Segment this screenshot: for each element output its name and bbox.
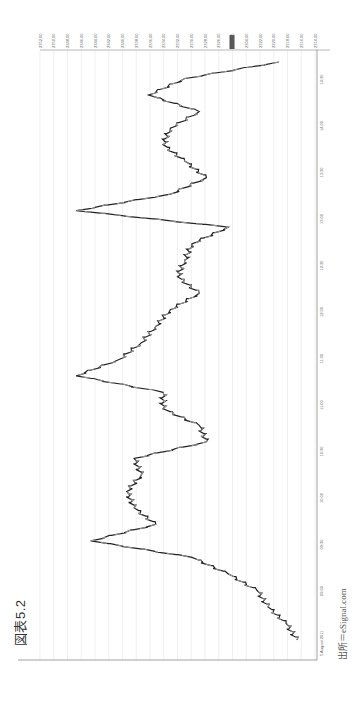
chart-grid [40, 50, 315, 660]
price-tick-label: 2346.00 [79, 33, 84, 48]
price-tick-label: 2322.00 [258, 33, 263, 48]
price-tick-label: 2344.00 [93, 33, 98, 48]
price-tick-label: 2330.00 [189, 33, 194, 48]
time-tick-label: 12:00 [319, 306, 324, 317]
time-tick-label: 11:30 [319, 353, 324, 363]
price-tick-label: 2340.00 [120, 33, 125, 48]
time-tick-label: 10:00 [319, 492, 324, 503]
time-tick-label: 11:00 [319, 400, 324, 410]
figure-title: 図表5.2 [10, 599, 29, 646]
price-tick-label: 2304.00 [244, 33, 249, 48]
price-tick-label: 2314.00 [313, 33, 318, 48]
price-tick-label: 2336.00 [148, 33, 153, 48]
chart-axes [18, 50, 330, 660]
time-tick-label: 14:30 [319, 74, 324, 85]
price-tick-label: 2328.00 [203, 33, 208, 48]
time-tick-label: 14:00 [319, 120, 324, 131]
price-tick-label: 2352.00 [38, 33, 43, 48]
time-tick-label: 13:00 [319, 213, 324, 224]
time-tick-label: 09:30 [319, 539, 324, 550]
price-tick-label: 2348.00 [65, 33, 70, 48]
date-label: 5 August 2011 [319, 630, 324, 656]
price-line [76, 62, 298, 640]
time-tick-label: 09:00 [319, 585, 324, 596]
time-tick-label: 13:30 [319, 167, 324, 178]
price-tick-label: 2350.00 [51, 33, 56, 48]
price-line-highlight [76, 62, 298, 640]
price-tick-label: 2342.00 [106, 33, 111, 48]
price-tick-label: 2316.00 [299, 33, 304, 48]
price-tick-label: 2320.00 [271, 33, 276, 48]
time-tick-label: 12:30 [319, 260, 324, 271]
price-tick-label: 2326.00 [216, 33, 221, 48]
price-tick-label: 2332.00 [175, 33, 180, 48]
price-tick-label: 2334.00 [161, 33, 166, 48]
price-tick-label: 2318.00 [285, 33, 290, 48]
price-tick-label: 2306.00 [230, 33, 235, 48]
price-chart: 2352.002350.002348.002346.002344.002342.… [0, 0, 359, 705]
axis-labels: 2352.002350.002348.002346.002344.002342.… [38, 33, 325, 656]
source-credit: 出所＝eSignal.com [336, 588, 349, 660]
time-tick-label: 10:30 [319, 446, 324, 457]
price-tick-label: 2338.00 [134, 33, 139, 48]
